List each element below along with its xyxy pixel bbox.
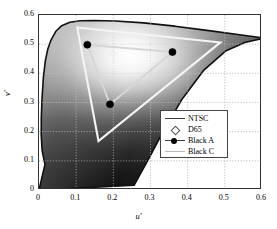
x-tick-label: 0: [26, 193, 50, 202]
black-c-line-icon: [164, 146, 186, 157]
x-tick-label: 0.2: [100, 193, 124, 202]
legend-label-ntsc: NTSC: [186, 113, 208, 124]
legend-item-ntsc: NTSC: [161, 113, 227, 124]
x-axis-title: u': [0, 211, 277, 221]
y-tick-label: 0.4: [12, 67, 34, 76]
legend-item-black-a: Black A: [161, 135, 227, 146]
legend-box: NTSC D65 Black A Black C: [160, 110, 228, 158]
y-axis-title: v': [2, 90, 12, 96]
legend-label-black-c: Black C: [186, 146, 214, 157]
y-tick-label: 0.3: [12, 97, 34, 106]
x-tick-label: 0.1: [63, 193, 87, 202]
y-tick-label: 0: [12, 184, 34, 193]
plot-area: [38, 14, 261, 189]
y-tick-label: 0.5: [12, 38, 34, 47]
legend-label-d65: D65: [186, 124, 202, 135]
x-tick-label: 0.4: [175, 193, 199, 202]
circle-marker-line-icon: [164, 135, 186, 146]
x-tick-label: 0.6: [249, 193, 273, 202]
y-tick-label: 0.6: [12, 9, 34, 18]
x-tick-label: 0.5: [212, 193, 236, 202]
legend-item-black-c: Black C: [161, 146, 227, 157]
y-tick-label: 0.2: [12, 126, 34, 135]
chromaticity-diagram-figure: 00.10.20.30.40.50.6 00.10.20.30.40.50.6 …: [0, 0, 277, 229]
diamond-marker-icon: [164, 124, 186, 135]
x-tick-label: 0.3: [138, 193, 162, 202]
y-tick-label: 0.1: [12, 155, 34, 164]
legend-item-d65: D65: [161, 124, 227, 135]
ntsc-line-icon: [164, 113, 186, 124]
chart-canvas: [39, 15, 261, 189]
legend-label-black-a: Black A: [186, 135, 214, 146]
spectral-locus-region: [39, 21, 261, 189]
